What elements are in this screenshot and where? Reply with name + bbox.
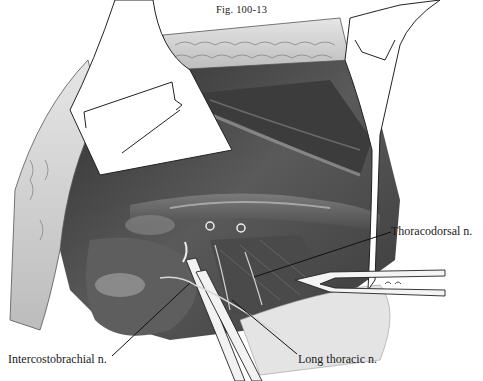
label-thoracodorsal-nerve: Thoracodorsal n. — [391, 224, 472, 239]
label-intercostobrachial-nerve: Intercostobrachial n. — [8, 352, 107, 367]
label-long-thoracic-nerve: Long thoracic n. — [298, 352, 377, 367]
surgical-illustration — [0, 0, 483, 381]
